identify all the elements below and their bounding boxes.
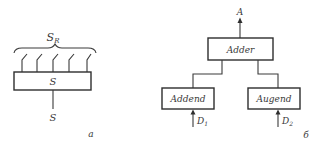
diagram-canvas: SR S S а A Adder Addend Augend: [0, 0, 322, 143]
edge-augend-adder: [258, 60, 278, 88]
edge-addend-adder: [193, 60, 222, 88]
brace: [14, 44, 96, 53]
arrowhead-icon: [191, 110, 196, 115]
node-addend-label: Addend: [170, 94, 206, 104]
label-d1: D1: [196, 116, 208, 127]
label-s-out: S: [50, 112, 57, 123]
node-adder-label: Adder: [226, 45, 255, 55]
panel-a: SR S S а: [14, 31, 96, 139]
arrowhead-icon: [238, 18, 243, 24]
node-augend-label: Augend: [256, 94, 292, 104]
input-leads: [22, 54, 91, 72]
panel-b: A Adder Addend Augend D1 D2 б: [162, 7, 309, 140]
label-d2: D2: [281, 116, 293, 127]
label-a-output: A: [236, 7, 244, 17]
caption-b: б: [303, 130, 309, 140]
label-s-r: SR: [47, 31, 61, 45]
caption-a: а: [88, 129, 93, 139]
arrowhead-icon: [276, 110, 281, 115]
box-s-label: S: [50, 76, 57, 87]
